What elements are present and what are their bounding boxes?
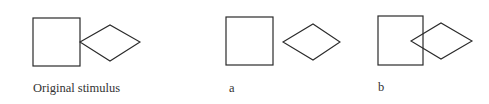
panel-a xyxy=(226,17,340,65)
panel-original xyxy=(33,18,140,66)
diamond-shape xyxy=(411,23,472,59)
square-shape xyxy=(33,18,80,66)
square-shape xyxy=(226,17,273,65)
diamond-shape xyxy=(80,25,140,61)
label-a: a xyxy=(229,82,235,95)
panel-b xyxy=(378,16,472,65)
label-b: b xyxy=(378,81,384,94)
square-shape xyxy=(378,16,423,65)
diamond-shape xyxy=(283,24,340,60)
label-original-stimulus: Original stimulus xyxy=(33,82,120,95)
